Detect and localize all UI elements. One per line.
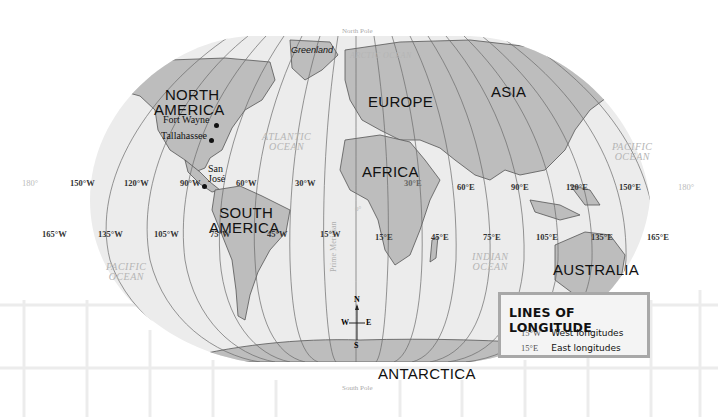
- continent-africa: AFRICA: [362, 164, 419, 179]
- lon-label-105e: 105°E: [536, 233, 558, 242]
- legend-row-east: 15°E East longitudes: [521, 343, 621, 353]
- south-america-line1: SOUTH: [213, 205, 279, 220]
- lon-label-60w: 60°W: [236, 179, 256, 188]
- city-fort-wayne: Fort Wayne: [163, 115, 210, 125]
- lon-label-165w: 165°W: [42, 230, 67, 239]
- lon-label-60e: 60°E: [457, 183, 475, 192]
- lon-label-120e: 120°E: [566, 183, 588, 192]
- south-pole-label: South Pole: [342, 385, 373, 392]
- continent-australia: AUSTRALIA: [553, 262, 639, 277]
- lon-label-30e: 30°E: [404, 179, 422, 188]
- fort-wayne-dot: [214, 123, 219, 128]
- legend-box: LINES OF LONGITUDE 15°W West longitudes …: [498, 292, 650, 358]
- city-san-jose: San José: [208, 164, 225, 184]
- legend-desc-west: West longitudes: [551, 328, 623, 338]
- tallahassee-dot: [209, 138, 214, 143]
- lon-label-45w: 45°W: [267, 230, 287, 239]
- north-pole-label: North Pole: [342, 28, 373, 35]
- lon-label-90w: 90°W: [180, 179, 200, 188]
- san-jose-line2: José: [208, 174, 225, 184]
- lon-label-165e: 165°E: [647, 233, 669, 242]
- pacific-ocean-east-label: PACIFIC OCEAN: [612, 142, 653, 162]
- legend-code-east: 15°E: [521, 343, 549, 353]
- atlantic-ocean-label: ATLANTIC OCEAN: [262, 132, 311, 152]
- lon-label-15e: 15°E: [375, 233, 393, 242]
- legend-code-west: 15°W: [521, 328, 549, 338]
- lon-label-150e: 150°E: [619, 183, 641, 192]
- compass-rose: N S W E: [342, 298, 372, 348]
- lon-label-180-west: 180°: [22, 179, 38, 188]
- legend-desc-east: East longitudes: [551, 343, 620, 353]
- lon-label-135w: 135°W: [98, 230, 123, 239]
- lon-label-75e: 75°E: [483, 233, 501, 242]
- lon-label-180-east: 180°: [678, 183, 694, 192]
- continent-antarctica: ANTARCTICA: [378, 366, 476, 381]
- atlantic-line2: OCEAN: [262, 142, 311, 152]
- indian-ocean-label: INDIAN OCEAN: [472, 252, 508, 272]
- compass-east: E: [366, 319, 371, 327]
- lon-label-120w: 120°W: [124, 179, 149, 188]
- arctic-ocean-label: ARCTIC OCEAN: [350, 52, 412, 60]
- lon-label-75w: 75°W: [210, 230, 230, 239]
- lon-label-150w: 150°W: [70, 179, 95, 188]
- indian-line2: OCEAN: [472, 262, 508, 272]
- compass-south: S: [354, 342, 358, 350]
- lon-label-135e: 135°E: [591, 233, 613, 242]
- continent-asia: ASIA: [491, 84, 526, 99]
- continent-north-america: NORTH AMERICA: [160, 87, 224, 117]
- san-jose-dot: [202, 184, 207, 189]
- city-tallahassee: Tallahassee: [161, 131, 207, 141]
- legend-row-west: 15°W West longitudes: [521, 328, 623, 338]
- north-america-line1: NORTH: [160, 87, 224, 102]
- zero-degree-label: 0°: [355, 206, 361, 213]
- lon-label-45e: 45°E: [431, 233, 449, 242]
- pacific-ocean-west-label: PACIFIC OCEAN: [106, 262, 147, 282]
- pacific-east-line2: OCEAN: [612, 152, 653, 162]
- compass-west: W: [341, 319, 349, 327]
- compass-north: N: [354, 296, 360, 304]
- continent-europe: EUROPE: [368, 94, 433, 109]
- lon-label-30w: 30°W: [295, 179, 315, 188]
- pacific-west-line2: OCEAN: [106, 272, 147, 282]
- lon-label-90e: 90°E: [511, 183, 529, 192]
- greenland-label: Greenland: [291, 46, 333, 55]
- lon-label-105w: 105°W: [154, 230, 179, 239]
- lon-label-15w: 15°W: [320, 230, 340, 239]
